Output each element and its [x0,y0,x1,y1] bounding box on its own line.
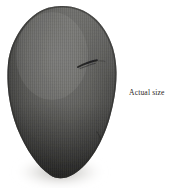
actual-size-caption: Actual size [129,88,177,98]
figure-root: Actual size [0,0,179,188]
